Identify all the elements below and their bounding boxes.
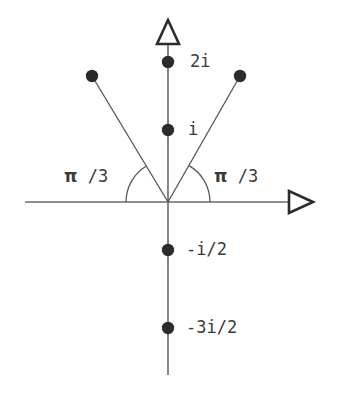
plot-point-p-neg-3i-2 <box>162 322 174 334</box>
point-label-p-neg-3i-2: -3i/2 <box>186 319 237 336</box>
angle-label-left: π /3 <box>64 168 108 185</box>
diagram-canvas <box>0 0 338 398</box>
plot-point-p-neg-i-2 <box>162 244 174 256</box>
real-axis-arrow-icon <box>289 191 313 213</box>
angle-denominator: /3 <box>77 166 108 186</box>
angle-arc <box>126 166 146 202</box>
point-label-p-neg-i-2: -i/2 <box>186 241 227 258</box>
point-label-p-i: i <box>188 121 198 138</box>
imaginary-axis-arrow-icon <box>157 20 179 44</box>
angle-arc <box>189 166 210 202</box>
complex-plane-figure: 2ii-i/2-3i/2 π /3π /3 <box>0 0 338 398</box>
angle-denominator: /3 <box>227 166 258 186</box>
plot-point-p-2i <box>162 56 174 68</box>
plot-point-p-i <box>162 124 174 136</box>
pi-symbol: π <box>64 166 77 186</box>
point-label-p-2i: 2i <box>190 53 210 70</box>
points-group <box>86 56 246 334</box>
pi-symbol: π <box>214 166 227 186</box>
angle-label-right: π /3 <box>214 168 258 185</box>
plot-point-p-left-ray <box>86 70 98 82</box>
plot-point-p-right-ray <box>234 70 246 82</box>
